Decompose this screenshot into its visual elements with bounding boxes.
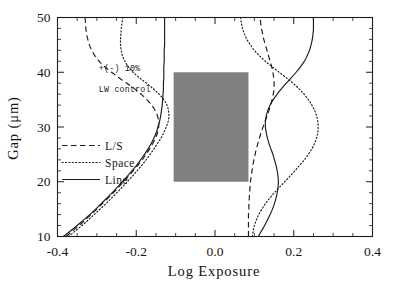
curve-space-lower xyxy=(69,18,169,237)
y-tick-label: 30 xyxy=(37,120,51,135)
curve-l-s-upper xyxy=(248,18,274,237)
y-tick-label: 40 xyxy=(37,65,51,80)
x-tick-label: 0.0 xyxy=(207,244,224,259)
chart-figure: -0.4-0.20.00.20.41020304050 +(-) 10%LW c… xyxy=(0,0,402,288)
curve-line-lower xyxy=(63,18,164,237)
x-tick-label: -0.2 xyxy=(126,244,147,259)
curve-l-s-lower xyxy=(66,18,159,237)
exposure-latitude-plot: -0.4-0.20.00.20.41020304050 +(-) 10%LW c… xyxy=(0,0,402,288)
x-tick-label: 0.2 xyxy=(285,244,302,259)
legend-label-space: Space xyxy=(105,157,135,170)
annotation-line-2: LW control xyxy=(99,85,151,94)
y-tick-label: 20 xyxy=(37,174,51,189)
y-tick-label: 50 xyxy=(37,10,51,25)
x-tick-label: -0.4 xyxy=(47,244,69,259)
x-axis-title: Log Exposure xyxy=(168,263,261,279)
x-tick-label: 0.4 xyxy=(364,244,381,259)
y-tick-label: 10 xyxy=(37,229,51,244)
annotations-group: +(-) 10%LW control xyxy=(99,64,151,94)
legend: L/SSpaceLine xyxy=(62,140,135,186)
process-window-region xyxy=(174,72,249,182)
y-axis-title: Gap (μm) xyxy=(5,96,22,160)
legend-label-line: Line xyxy=(105,174,128,186)
process-window-rect xyxy=(174,72,249,182)
legend-label-l-s: L/S xyxy=(105,140,123,152)
curve-space-upper xyxy=(241,18,319,237)
annotation-line-1: +(-) 10% xyxy=(99,64,140,73)
